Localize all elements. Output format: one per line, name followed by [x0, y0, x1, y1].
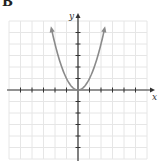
- panel-label: B: [2, 0, 13, 9]
- y-axis-label: y: [68, 11, 75, 21]
- x-axis-label: x: [152, 92, 157, 102]
- parabola-graph: B x y: [0, 0, 161, 166]
- axes: x y: [7, 11, 157, 161]
- curve-arrow-icon: [101, 26, 106, 32]
- plot-area: x y: [0, 0, 161, 166]
- y-axis-arrow-icon: [76, 13, 81, 18]
- curve-arrow-icon: [50, 26, 55, 32]
